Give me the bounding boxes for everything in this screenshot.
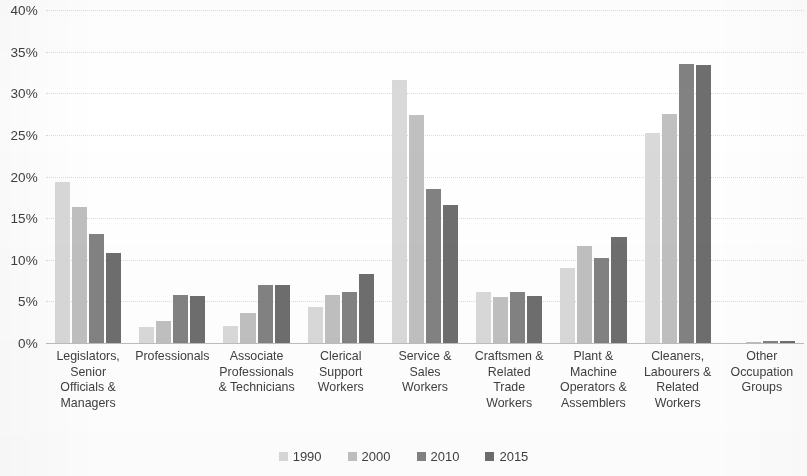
bar-group-bars	[130, 10, 214, 343]
y-axis-tick-label: 40%	[0, 3, 38, 18]
bar-group	[130, 10, 214, 343]
bar	[342, 292, 357, 343]
legend-swatch-icon	[279, 452, 288, 461]
bar	[426, 189, 441, 343]
bar-group-bars	[383, 10, 467, 343]
bar-group	[46, 10, 130, 343]
bar	[476, 292, 491, 343]
bar-groups	[46, 10, 804, 343]
bar	[746, 342, 761, 343]
bar	[223, 326, 238, 343]
x-axis-category-label: Cleaners, Labourers & Related Workers	[636, 349, 720, 437]
legend-label: 2010	[431, 449, 460, 464]
bar-group-bars	[636, 10, 720, 343]
bar	[560, 268, 575, 343]
legend-swatch-icon	[417, 452, 426, 461]
x-axis-category-label: Legislators, Senior Officials & Managers	[46, 349, 130, 437]
bar-group	[299, 10, 383, 343]
y-axis-tick-label: 20%	[0, 169, 38, 184]
bar	[173, 295, 188, 343]
bar	[258, 285, 273, 343]
bar	[443, 205, 458, 343]
legend-item[interactable]: 2010	[417, 449, 460, 464]
plot-area	[46, 10, 804, 343]
bar-chart: 40%35%30%25%20%15%10%5%0% Legislators, S…	[0, 0, 807, 476]
bar-group	[551, 10, 635, 343]
y-axis-tick-label: 0%	[0, 336, 38, 351]
bar	[72, 207, 87, 343]
bar-group-bars	[720, 10, 804, 343]
bar	[409, 115, 424, 343]
bar	[696, 65, 711, 343]
bar	[139, 327, 154, 343]
bar-group-bars	[299, 10, 383, 343]
y-axis-tick-label: 35%	[0, 44, 38, 59]
chart-legend: 1990200020102015	[0, 449, 807, 464]
y-axis-tick-label: 25%	[0, 127, 38, 142]
bar	[679, 64, 694, 343]
x-axis-category-label: Plant & Machine Operators & Assemblers	[551, 349, 635, 437]
y-axis-tick-label: 15%	[0, 211, 38, 226]
bar	[662, 114, 677, 343]
axis-baseline	[46, 343, 804, 345]
x-axis-category-label: Service & Sales Workers	[383, 349, 467, 437]
bar	[359, 274, 374, 343]
y-axis: 40%35%30%25%20%15%10%5%0%	[0, 0, 44, 352]
legend-swatch-icon	[485, 452, 494, 461]
bar	[275, 285, 290, 343]
legend-item[interactable]: 2000	[348, 449, 391, 464]
bar	[527, 296, 542, 343]
bar	[594, 258, 609, 343]
bar	[156, 321, 171, 343]
legend-swatch-icon	[348, 452, 357, 461]
bar	[577, 246, 592, 343]
bar-group	[467, 10, 551, 343]
x-axis-category-label: Other Occupation Groups	[720, 349, 804, 437]
bar	[611, 237, 626, 343]
bar	[510, 292, 525, 343]
bar-group-bars	[467, 10, 551, 343]
bar-group-bars	[551, 10, 635, 343]
bar	[325, 295, 340, 343]
x-axis-category-label: Clerical Support Workers	[299, 349, 383, 437]
legend-label: 1990	[293, 449, 322, 464]
legend-item[interactable]: 1990	[279, 449, 322, 464]
bar-group-bars	[214, 10, 298, 343]
bar	[308, 307, 323, 343]
bar	[190, 296, 205, 343]
bar	[780, 341, 795, 343]
bar-group	[214, 10, 298, 343]
bar	[493, 297, 508, 343]
x-axis-category-label: Professionals	[130, 349, 214, 437]
x-axis-category-label: Craftsmen & Related Trade Workers	[467, 349, 551, 437]
legend-label: 2000	[362, 449, 391, 464]
bar-group	[636, 10, 720, 343]
legend-item[interactable]: 2015	[485, 449, 528, 464]
y-axis-tick-label: 30%	[0, 86, 38, 101]
bar	[645, 133, 660, 343]
y-axis-tick-label: 10%	[0, 252, 38, 267]
x-axis-labels: Legislators, Senior Officials & Managers…	[46, 349, 804, 437]
bar	[106, 253, 121, 343]
bar	[392, 80, 407, 343]
bar-group	[383, 10, 467, 343]
bar-group-bars	[46, 10, 130, 343]
bar	[89, 234, 104, 343]
bar-group	[720, 10, 804, 343]
x-axis-category-label: Associate Professionals & Technicians	[214, 349, 298, 437]
bar	[240, 313, 255, 343]
y-axis-tick-label: 5%	[0, 294, 38, 309]
legend-label: 2015	[499, 449, 528, 464]
bar	[55, 182, 70, 344]
bar	[763, 341, 778, 343]
